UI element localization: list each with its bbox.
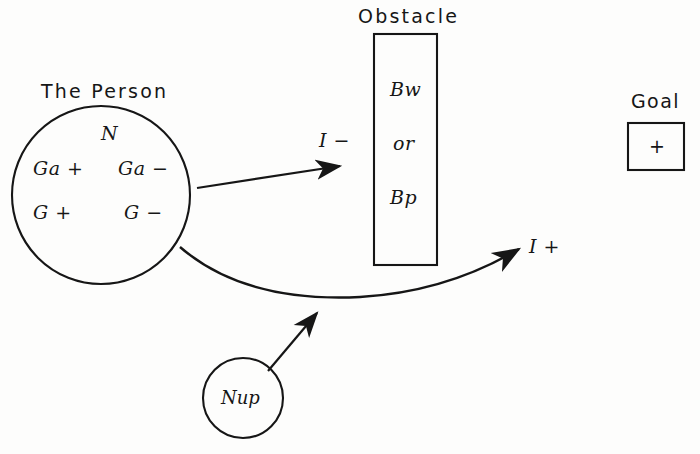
- goal-caption: Goal: [631, 92, 680, 111]
- person-caption: The Person: [41, 82, 168, 101]
- obstacle-content-2: Bp: [390, 188, 417, 207]
- blocked-path-label: I −: [319, 131, 350, 150]
- blocked-path-arrow: [197, 166, 340, 188]
- person-label-upper-left: Ga +: [33, 159, 83, 178]
- need-label: Nup: [221, 389, 260, 407]
- goal-path-arrow: [180, 247, 519, 298]
- need-vector-arrow: [268, 313, 317, 371]
- obstacle-caption: Obstacle: [358, 7, 459, 26]
- figure-linework: [0, 0, 700, 454]
- goal-valence-symbol: +: [649, 137, 665, 156]
- obstacle-content-1: or: [393, 134, 415, 153]
- person-label-upper-right: Ga −: [118, 159, 168, 178]
- obstacle-content-0: Bw: [390, 80, 421, 99]
- person-label-lower-right: G −: [124, 203, 163, 222]
- figure-canvas: The Person N Ga + Ga − G + G − Obstacle …: [0, 0, 700, 454]
- person-center-label: N: [101, 124, 118, 143]
- person-label-lower-left: G +: [33, 203, 72, 222]
- goal-path-label: I +: [529, 237, 560, 256]
